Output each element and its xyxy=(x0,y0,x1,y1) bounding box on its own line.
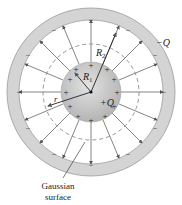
svg-text:−: − xyxy=(52,26,57,35)
svg-text:+: + xyxy=(88,60,93,70)
svg-text:−: − xyxy=(26,51,31,60)
r2-label: R2 xyxy=(95,47,106,60)
svg-text:−: − xyxy=(26,124,31,133)
svg-text:−: − xyxy=(89,161,94,170)
spherical-capacitor-diagram: + + + + + + + + + + + + − − − − − − − − … xyxy=(0,0,182,205)
svg-text:+: + xyxy=(73,64,78,74)
svg-text:+: + xyxy=(102,111,107,121)
svg-text:+: + xyxy=(104,64,109,74)
plus-q-label: +Q xyxy=(100,97,115,108)
svg-text:+: + xyxy=(114,87,119,97)
svg-text:−: − xyxy=(126,150,131,159)
svg-text:+: + xyxy=(88,115,93,125)
svg-text:+: + xyxy=(111,74,116,84)
svg-text:−: − xyxy=(17,88,22,97)
svg-text:−: − xyxy=(89,16,94,25)
svg-text:−: − xyxy=(126,26,131,35)
svg-text:−: − xyxy=(153,124,158,133)
r-label: r xyxy=(54,94,58,104)
svg-text:+: + xyxy=(67,74,72,84)
gaussian-label-line1: Gaussian xyxy=(42,181,75,191)
svg-text:+: + xyxy=(63,87,68,97)
svg-text:+: + xyxy=(67,101,72,111)
gaussian-label-line2: surface xyxy=(45,192,71,202)
minus-q-label: −Q xyxy=(156,37,171,48)
svg-text:−: − xyxy=(153,51,158,60)
svg-text:+: + xyxy=(75,111,80,121)
center-point xyxy=(89,90,92,93)
svg-text:−: − xyxy=(52,150,57,159)
svg-text:−: − xyxy=(162,88,167,97)
